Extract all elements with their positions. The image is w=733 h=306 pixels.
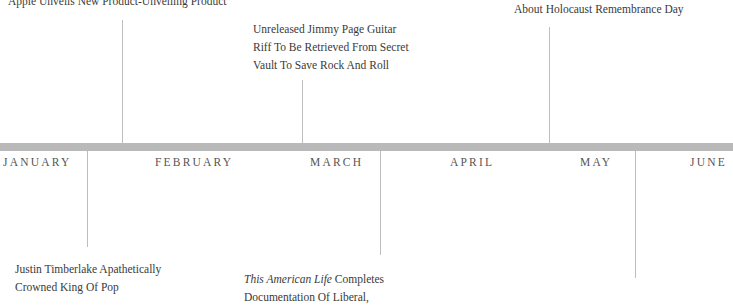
month-january: JANUARY (3, 156, 71, 168)
month-june: JUNE (690, 156, 727, 168)
month-march: MARCH (310, 156, 363, 168)
event-holocaust-day[interactable]: About Holocaust Remembrance Day (514, 0, 684, 18)
timeline-bar (0, 143, 733, 151)
month-april: APRIL (450, 156, 494, 168)
month-february: FEBRUARY (155, 156, 233, 168)
connector-jimmy-page (302, 80, 303, 143)
connector-timberlake (87, 151, 88, 247)
event-timberlake[interactable]: Justin Timberlake Apathetically Crowned … (15, 260, 161, 296)
event-jimmy-page[interactable]: Unreleased Jimmy Page Guitar Riff To Be … (253, 20, 409, 74)
connector-june-event (635, 151, 636, 278)
connector-apple (122, 20, 123, 143)
connector-holocaust-day (549, 27, 550, 143)
event-apple[interactable]: Apple Unveils New Product-Unveiling Prod… (8, 0, 226, 10)
month-may: MAY (580, 156, 612, 168)
event-this-american-life[interactable]: This American Life Completes Documentati… (244, 270, 384, 306)
connector-this-american-life (380, 151, 381, 255)
